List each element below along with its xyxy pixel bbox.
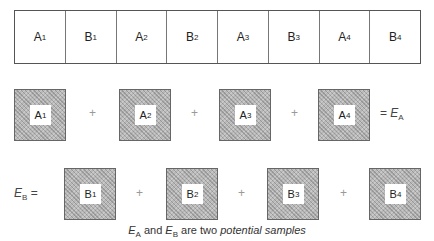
- strip-cell-b3: B3: [269, 11, 320, 63]
- plus-sign: +: [89, 106, 96, 120]
- sample-box-a1: A1: [14, 89, 66, 141]
- strip-cell-b4: B4: [370, 11, 420, 63]
- plus-sign: +: [291, 106, 298, 120]
- sample-box-b4: B4: [369, 168, 421, 220]
- sample-box-b1: B1: [64, 168, 116, 220]
- strip-cell-a3: A3: [218, 11, 269, 63]
- sample-box-b3: B3: [267, 168, 319, 220]
- result-ea: = EA: [380, 106, 404, 122]
- strip-cell-a4: A4: [320, 11, 371, 63]
- plus-sign: +: [191, 106, 198, 120]
- sample-box-b2: B2: [166, 168, 218, 220]
- strip-cell-a1: A1: [15, 11, 66, 63]
- strip-cell-b2: B2: [167, 11, 218, 63]
- sample-box-a2: A2: [119, 89, 171, 141]
- strip-cell-a2: A2: [117, 11, 168, 63]
- label-eb: EB =: [14, 186, 38, 202]
- caption: EA and EB are two potential samples: [0, 224, 434, 239]
- plus-sign: +: [136, 186, 143, 200]
- plus-sign: +: [340, 186, 347, 200]
- sample-box-a4: A4: [318, 89, 370, 141]
- strip-cell-b1: B1: [66, 11, 117, 63]
- sample-box-a3: A3: [219, 89, 271, 141]
- plus-sign: +: [238, 186, 245, 200]
- plot-strip: A1 B1 A2 B2 A3 B3 A4 B4: [14, 10, 421, 64]
